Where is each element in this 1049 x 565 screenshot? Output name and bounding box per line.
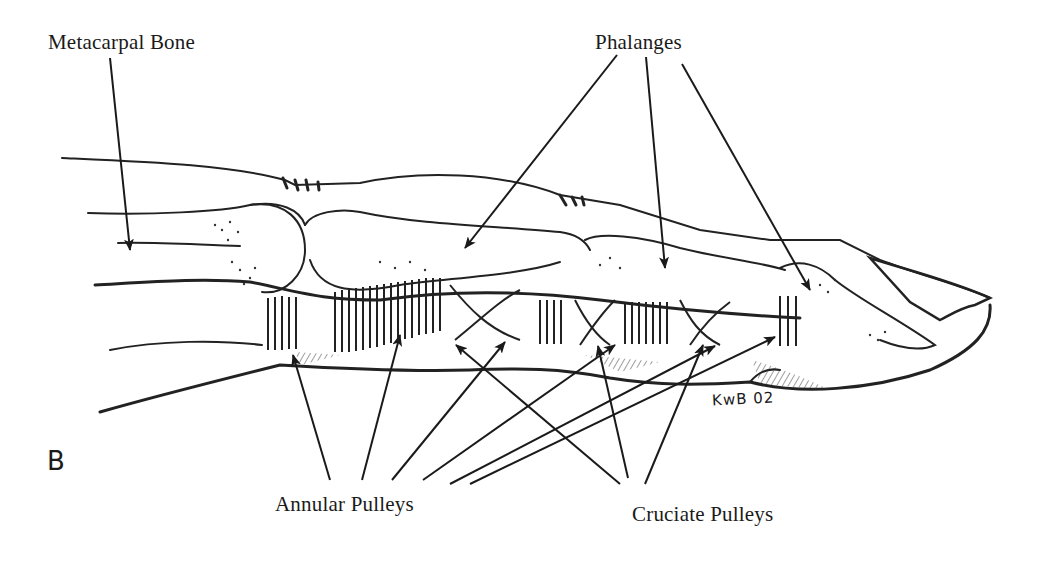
panel-letter: B [47,446,65,476]
label-metacarpal-bone: Metacarpal Bone [48,30,195,55]
label-phalanges: Phalanges [595,30,682,55]
finger-outline [62,158,990,412]
leader-arrows [110,55,810,484]
finger-anatomy-drawing [0,0,1049,565]
bone-stipple [214,221,886,341]
artist-signature: KwB 02 [712,388,775,409]
label-cruciate-pulleys: Cruciate Pulleys [632,502,773,527]
label-annular-pulleys: Annular Pulleys [275,492,414,517]
